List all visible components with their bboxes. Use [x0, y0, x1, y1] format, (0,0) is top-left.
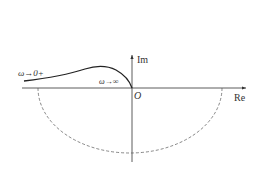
- real-axis-label: Re: [234, 92, 246, 103]
- nyquist-diagram: Im Re O ω→0+ ω→∞: [0, 0, 266, 173]
- dashed-arc: [38, 88, 222, 153]
- low-frequency-label: ω→0+: [18, 68, 44, 78]
- high-frequency-label: ω→∞: [99, 77, 119, 86]
- origin-label: O: [134, 90, 141, 101]
- imag-axis-label: Im: [137, 54, 148, 65]
